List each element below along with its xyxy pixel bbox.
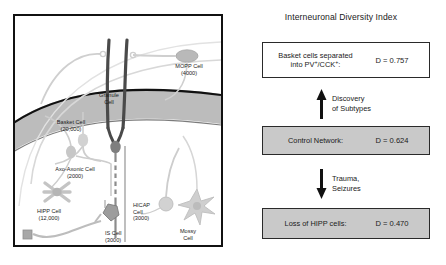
diversity-box-control-network: Control Network: D = 0.624 bbox=[262, 126, 430, 155]
hipp-cell-glyph bbox=[44, 183, 70, 201]
diversity-box-loss-of-hipp-label: Loss of HIPP cells: bbox=[263, 219, 359, 228]
arrow-trauma-label: Trauma, Seizures bbox=[328, 174, 361, 193]
diversity-box-basket-subtypes-label: Basket cells separatedinto PV+/CCK+: bbox=[263, 51, 359, 70]
label-mopp-cell: MOPP Cell(4000) bbox=[166, 63, 212, 76]
arrow-up-icon bbox=[316, 89, 328, 119]
dentate-gyrus-panel: MOPP Cell(4000) Granule Cell Basket Cell… bbox=[13, 14, 223, 247]
diversity-box-basket-subtypes: Basket cells separatedinto PV+/CCK+: D =… bbox=[262, 42, 430, 78]
diversity-box-control-network-label: Control Network: bbox=[263, 136, 359, 145]
diversity-box-basket-subtypes-value: D = 0.757 bbox=[359, 56, 429, 65]
label-hicap-cell: HICAP Cell(3000) bbox=[133, 202, 165, 222]
label-basket-cell: Basket Cell(20,000) bbox=[45, 119, 97, 132]
label-granule-cell: Granule Cell bbox=[89, 92, 129, 105]
label-axo-axonic-cell: Axo-Axonic Cell(2000) bbox=[43, 166, 107, 179]
mossy-cell-glyph bbox=[178, 136, 215, 225]
arrow-discovery-label: Discovery of Subtypes bbox=[328, 94, 371, 113]
label-hipp-cell: HIPP Cell(12,000) bbox=[25, 208, 73, 221]
label-is-cell: IS Cell(3000) bbox=[105, 230, 137, 243]
arrow-trauma-seizures: Trauma, Seizures bbox=[316, 166, 436, 202]
arrow-discovery-of-subtypes: Discovery of Subtypes bbox=[316, 86, 436, 122]
diversity-box-loss-of-hipp: Loss of HIPP cells: D = 0.470 bbox=[262, 208, 430, 239]
diversity-box-loss-of-hipp-value: D = 0.470 bbox=[359, 219, 429, 228]
diversity-box-control-network-value: D = 0.624 bbox=[359, 136, 429, 145]
page-title: Interneuronal Diversity Index bbox=[236, 12, 446, 22]
interneuronal-diversity-index-panel: Interneuronal Diversity Index Basket cel… bbox=[236, 0, 446, 265]
label-mossy-cell: Mossy Cell bbox=[173, 228, 203, 241]
arrow-down-icon bbox=[316, 169, 328, 199]
